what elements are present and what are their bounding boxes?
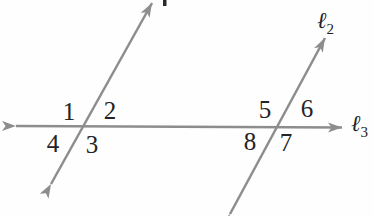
line-l2-label-base: ℓ (317, 8, 327, 33)
geometry-figure: 1 2 3 4 5 6 7 8 ℓ2 ℓ3 (0, 0, 374, 216)
angle-label-2: 2 (104, 97, 117, 124)
angle-label-6: 6 (301, 95, 314, 122)
line-l3-label-subscript: 3 (361, 124, 369, 140)
line-l3-label: ℓ3 (351, 111, 368, 140)
angle-label-5: 5 (259, 96, 272, 123)
angle-label-1: 1 (63, 98, 76, 125)
parallel-lines-transversal-diagram: 1 2 3 4 5 6 7 8 ℓ2 ℓ3 (0, 0, 374, 216)
line-l2-label-subscript: 2 (327, 21, 335, 37)
angle-label-4: 4 (47, 130, 60, 157)
line-l3-label-base: ℓ (351, 111, 361, 136)
angle-label-3: 3 (86, 131, 99, 158)
l1-label-cropped-fragment (163, 0, 167, 6)
line-l1 (51, 3, 152, 184)
line-l2-label: ℓ2 (317, 8, 334, 37)
angle-label-8: 8 (244, 128, 257, 155)
angle-label-7: 7 (280, 129, 293, 156)
line-l3 (16, 126, 342, 128)
